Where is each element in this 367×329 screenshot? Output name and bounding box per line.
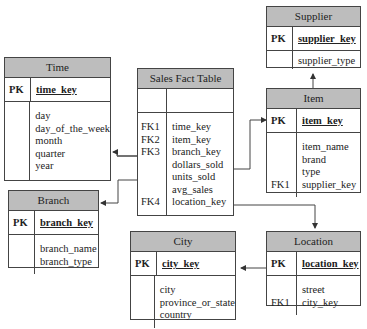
attr-field: location_key — [172, 196, 233, 209]
table-title: Supplier — [267, 7, 360, 27]
key-label: PK — [5, 78, 31, 101]
attr-body: FK1 item_name brand type supplier_key — [267, 133, 360, 197]
table-location[interactable]: Location PK location_key FK1 street city… — [266, 231, 361, 306]
pk-row: PK location_key — [267, 252, 360, 276]
attr-body: FK1 FK2 FK3 FK4 time_key item_key branch… — [138, 113, 233, 215]
attr-field: country — [160, 309, 235, 322]
attr-field: item_name — [302, 141, 360, 154]
attr-field: day_of_the_week — [35, 123, 110, 136]
key-label: FK2 — [141, 134, 166, 147]
table-time[interactable]: Time PK time_key day day_of_the_week mon… — [4, 57, 111, 181]
attr-field: avg_sales — [172, 184, 233, 197]
table-item[interactable]: Item PK item_key FK1 item_name brand typ… — [266, 88, 361, 193]
key-label: PK — [267, 252, 297, 275]
key-label — [141, 171, 166, 184]
pk-field: location_key — [297, 252, 360, 275]
key-label: PK — [131, 252, 157, 275]
attr-field: dollars_sold — [172, 159, 233, 172]
attr-field: quarter — [35, 148, 110, 161]
key-label — [141, 184, 166, 197]
attr-row: supplier_type — [267, 51, 360, 69]
attr-body: branch_name branch_type — [9, 235, 98, 274]
table-title: Sales Fact Table — [138, 69, 233, 89]
pk-field: time_key — [31, 78, 110, 101]
attr-field: month — [35, 135, 110, 148]
connector-time — [113, 152, 137, 156]
attr-field: year — [35, 160, 110, 173]
table-city[interactable]: City PK city_key city province_or_state … — [130, 231, 236, 320]
pk-row: PK branch_key — [9, 211, 98, 235]
attr-field: city — [160, 284, 235, 297]
table-title: Time — [5, 58, 110, 78]
key-label: PK — [267, 27, 293, 50]
attr-field: time_key — [172, 121, 233, 134]
pk-field: item_key — [297, 109, 360, 132]
table-title: City — [131, 232, 235, 252]
table-sales-fact[interactable]: Sales Fact Table FK1 FK2 FK3 FK4 time_ke… — [137, 68, 234, 216]
key-label: FK1 — [271, 297, 296, 310]
pk-field: city_key — [157, 252, 235, 275]
table-branch[interactable]: Branch PK branch_key branch_name branch_… — [8, 190, 99, 268]
attr-body: day day_of_the_week month quarter year — [5, 102, 110, 181]
key-label — [267, 51, 293, 69]
connector-branch — [101, 180, 137, 203]
key-label: FK1 — [271, 179, 296, 192]
attr-field: province_or_state — [160, 297, 235, 310]
connector-location — [234, 205, 315, 228]
pk-row: PK supplier_key — [267, 27, 360, 51]
key-label: PK — [267, 109, 297, 132]
table-title: Item — [267, 89, 360, 109]
attr-field: item_key — [172, 134, 233, 147]
attr-body: FK1 street city_key — [267, 276, 360, 315]
attr-field: branch_key — [172, 146, 233, 159]
key-label: PK — [9, 211, 35, 234]
key-label: FK1 — [141, 121, 166, 134]
key-label: FK3 — [141, 146, 166, 159]
key-label — [141, 159, 166, 172]
pk-row: PK time_key — [5, 78, 110, 102]
pk-row-empty — [138, 89, 233, 113]
pk-row: PK city_key — [131, 252, 235, 276]
key-column — [5, 102, 30, 181]
pk-field: supplier_key — [293, 27, 360, 50]
attr-field: units_sold — [172, 171, 233, 184]
key-label: FK4 — [141, 196, 166, 209]
attr-field: supplier_key — [302, 179, 360, 192]
table-supplier[interactable]: Supplier PK supplier_key supplier_type — [266, 6, 361, 68]
attr-field: branch_type — [40, 256, 98, 269]
connector-item — [234, 120, 266, 169]
attr-body: city province_or_state country — [131, 276, 235, 328]
pk-field: branch_key — [35, 211, 98, 234]
attr-field: day — [35, 110, 110, 123]
table-title: Branch — [9, 191, 98, 211]
table-title: Location — [267, 232, 360, 252]
attr-field: brand — [302, 154, 360, 167]
attr-field: street — [302, 284, 360, 297]
attr-field: supplier_type — [293, 51, 360, 69]
pk-row: PK item_key — [267, 109, 360, 133]
attr-field: type — [302, 166, 360, 179]
attr-field: city_key — [302, 297, 360, 310]
attr-field: branch_name — [40, 243, 98, 256]
